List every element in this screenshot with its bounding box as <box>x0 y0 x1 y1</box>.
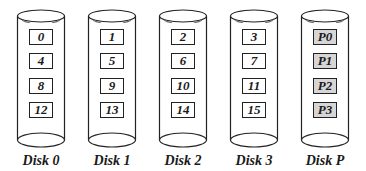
disk-p: P0 P1 P2 P3 Disk P <box>300 8 350 158</box>
parity-block: P1 <box>313 53 337 69</box>
disk-label: Disk 3 <box>219 153 289 169</box>
data-block: 8 <box>29 78 53 94</box>
data-block: 4 <box>29 53 53 69</box>
disk-label: Disk 1 <box>77 153 147 169</box>
disk-label: Disk 0 <box>6 153 76 169</box>
data-block: 12 <box>29 102 53 118</box>
disk-1: 1 5 9 13 Disk 1 <box>87 8 137 158</box>
disk-3: 3 7 11 15 Disk 3 <box>229 8 279 158</box>
data-block: 11 <box>242 78 266 94</box>
data-block: 15 <box>242 102 266 118</box>
disk-2: 2 6 10 14 Disk 2 <box>158 8 208 158</box>
data-block: 1 <box>100 29 124 45</box>
parity-block: P0 <box>313 29 337 45</box>
data-block: 3 <box>242 29 266 45</box>
parity-block: P2 <box>313 78 337 94</box>
data-block: 14 <box>171 102 195 118</box>
disk-label: Disk P <box>290 153 360 169</box>
data-block: 5 <box>100 53 124 69</box>
parity-block: P3 <box>313 102 337 118</box>
data-block: 2 <box>171 29 195 45</box>
disk-label: Disk 2 <box>148 153 218 169</box>
disk-0: 0 4 8 12 Disk 0 <box>16 8 66 158</box>
data-block: 7 <box>242 53 266 69</box>
data-block: 13 <box>100 102 124 118</box>
data-block: 0 <box>29 29 53 45</box>
data-block: 6 <box>171 53 195 69</box>
data-block: 9 <box>100 78 124 94</box>
data-block: 10 <box>171 78 195 94</box>
